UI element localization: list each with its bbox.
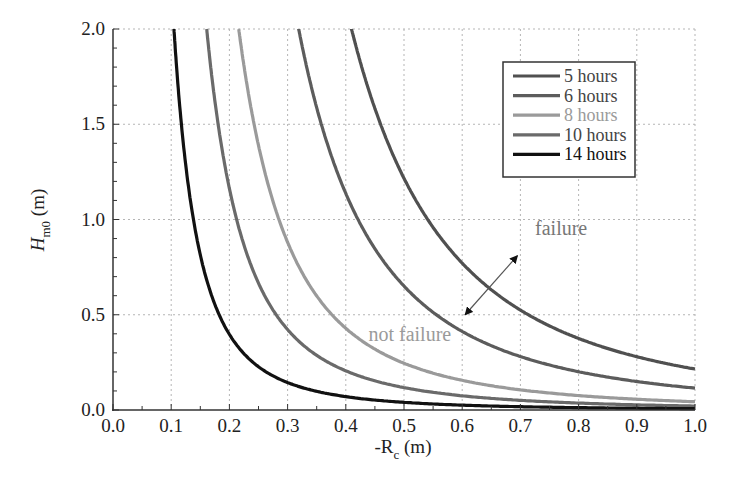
y-tick-label: 0.0 [81, 399, 105, 420]
x-tick-label: 0.5 [392, 415, 416, 436]
y-tick-label: 1.5 [81, 113, 105, 134]
legend: 5 hours6 hours8 hours10 hours14 hours [503, 62, 635, 177]
legend-label: 8 hours [564, 105, 618, 125]
legend-label: 5 hours [564, 66, 618, 86]
x-tick-label: 0.3 [276, 415, 300, 436]
x-tick-label: 0.6 [450, 415, 474, 436]
chart: 0.00.10.20.30.40.50.60.70.80.91.00.00.51… [0, 0, 740, 493]
legend-label: 14 hours [564, 144, 627, 164]
x-tick-label: 0.8 [567, 415, 591, 436]
x-axis-label: -Rc (m) [375, 436, 432, 462]
legend-label: 6 hours [564, 86, 618, 106]
annotation-failure: failure [535, 217, 587, 239]
y-tick-label: 2.0 [81, 18, 105, 39]
y-axis-label: Hm0 (m) [27, 189, 53, 253]
x-tick-label: 0.7 [509, 415, 533, 436]
y-tick-label: 1.0 [81, 209, 105, 230]
x-tick-label: 0.9 [625, 415, 649, 436]
x-tick-label: 1.0 [683, 415, 707, 436]
y-tick-label: 0.5 [81, 304, 105, 325]
annotation-not-failure: not failure [368, 323, 451, 345]
x-tick-label: 0.2 [218, 415, 242, 436]
x-tick-label: 0.1 [159, 415, 183, 436]
double-arrow-icon [465, 256, 517, 315]
x-tick-label: 0.4 [334, 415, 358, 436]
legend-label: 10 hours [564, 125, 627, 145]
